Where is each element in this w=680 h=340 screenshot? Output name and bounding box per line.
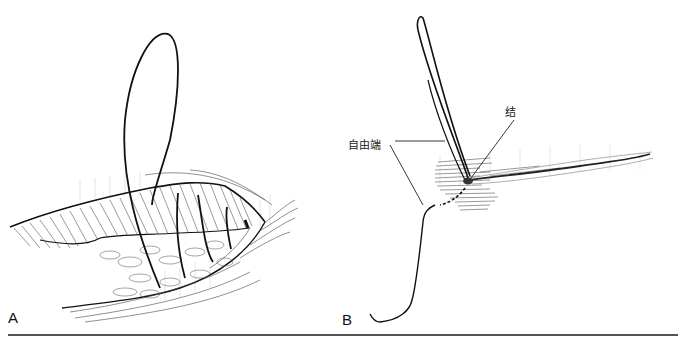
panel-letter-a: A	[8, 309, 18, 326]
wound-suture-illustration-a	[0, 0, 340, 332]
panel-a: A	[0, 0, 340, 332]
bottom-rule	[8, 334, 678, 336]
panel-letter-b: B	[342, 311, 352, 328]
panel-b: B	[340, 0, 680, 332]
knot-illustration-b	[340, 0, 680, 332]
free-end-label: 自由端	[348, 136, 381, 152]
knot-label: 结	[505, 103, 516, 119]
